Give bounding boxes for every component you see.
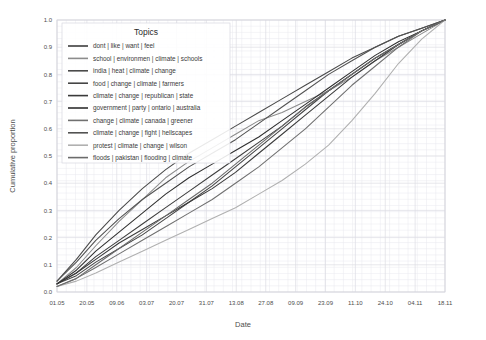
x-tick-label: 24.10 [378,300,394,306]
legend-item-label: dont | like | want | feel [93,42,154,50]
x-tick-label: 11.10 [348,300,363,306]
y-tick-label: 0.3 [44,208,53,214]
y-tick-label: 0.7 [44,99,53,105]
x-tick-label: 04.11 [408,300,423,306]
chart-figure: 0.00.10.20.30.40.50.60.70.80.91.0 01.052… [0,0,486,340]
x-axis-title: Date [235,320,251,329]
x-tick-label: 31.07 [199,300,215,306]
x-tick-label: 18.11 [438,300,453,306]
x-tick-label: 09.09 [288,300,304,306]
legend-title: Topics [134,27,158,37]
legend: Topics dont | like | want | feelschool |… [62,23,230,163]
x-tick-label: 09.06 [109,300,125,306]
y-axis-title: Cumulative proportion [8,119,17,192]
legend-item-label: protest | climate | change | wilson [93,142,188,150]
legend-item-label: climate | change | republican | state [93,92,194,100]
y-tick-label: 0.9 [44,44,53,50]
y-tick-label: 0.8 [44,72,53,78]
legend-item-label: change | climate | canada | greener [93,117,194,125]
y-tick-label: 1.0 [44,17,53,23]
x-tick-label: 13.08 [229,300,245,306]
legend-item-label: food | change | climate | farmers [93,80,184,88]
y-tick-label: 0.0 [44,289,53,295]
cumulative-proportion-line-chart: 0.00.10.20.30.40.50.60.70.80.91.0 01.052… [0,0,486,340]
y-tick-label: 0.2 [44,235,53,241]
x-tick-label: 20.07 [169,300,185,306]
x-tick-label: 03.07 [139,300,155,306]
legend-item-label: school | environmen | climate | schools [93,55,202,63]
y-tick-label: 0.5 [44,153,53,159]
y-tick-label: 0.4 [44,180,53,186]
legend-item-label: government | party | ontario | australia [93,104,201,112]
legend-item-label: floods | pakistan | flooding | climate [93,154,193,162]
legend-item-label: climate | change | fight | hellscapes [93,129,192,137]
legend-item-label: india | heat | climate | change [93,67,176,75]
y-tick-label: 0.1 [44,262,53,268]
x-tick-label: 27.08 [258,300,274,306]
x-tick-label: 01.05 [49,300,65,306]
y-tick-label: 0.6 [44,126,53,132]
x-tick-label: 20.05 [79,300,95,306]
x-tick-label: 23.09 [318,300,334,306]
